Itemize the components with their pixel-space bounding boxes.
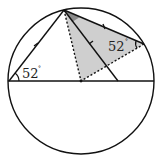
angle-label-left: 52 [22, 66, 39, 81]
geometry-diagram: 52 ° 52 ° [0, 0, 161, 156]
angle-degree-left: ° [38, 64, 41, 71]
angle-degree-right: ° [125, 37, 128, 44]
center-point [80, 80, 83, 83]
angle-label-right: 52 [108, 39, 125, 54]
angle-arc-left [15, 73, 19, 81]
shaded-triangle [64, 10, 144, 81]
